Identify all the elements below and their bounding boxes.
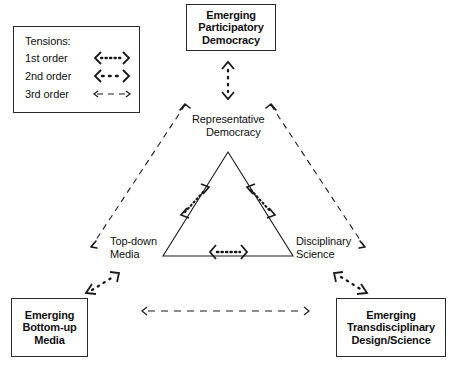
- legend-row-1st-order: 1st order: [25, 49, 139, 67]
- tensions-legend: Tensions: 1st order 2nd order 3rd order: [13, 26, 140, 113]
- node-label-line: Democracy: [202, 126, 265, 139]
- box-line: Design/Science: [351, 334, 430, 347]
- legend-row-2nd-order: 2nd order: [25, 67, 139, 85]
- node-label-line: Disciplinary: [296, 235, 351, 248]
- top-down-media-label: Top-down Media: [110, 235, 157, 261]
- inner-triangle: [163, 152, 293, 256]
- emerging-participatory-democracy-box: Emerging Participatory Democracy: [186, 4, 276, 51]
- node-label-line: Top-down: [110, 235, 157, 248]
- dotted-double-arrow-dense-icon: [88, 51, 136, 65]
- outer-triangle-right-apex-arrowhead: [266, 104, 276, 110]
- diagram-canvas: Tensions: 1st order 2nd order 3rd order: [0, 0, 453, 368]
- box-line: Media: [34, 334, 64, 347]
- legend-title: Tensions:: [25, 34, 139, 49]
- node-label-line: Media: [110, 248, 157, 261]
- box-line: Transdisciplinary: [347, 321, 435, 334]
- node-label-line: Science: [296, 248, 351, 261]
- box-line: Democracy: [202, 34, 260, 47]
- emerging-transdisciplinary-design-science-box: Emerging Transdisciplinary Design/Scienc…: [336, 298, 446, 357]
- legend-label-2nd-order: 2nd order: [25, 70, 88, 82]
- emerging-bottom-up-media-box: Emerging Bottom-up Media: [11, 298, 88, 357]
- outer-triangle-left-apex-arrowhead: [180, 104, 190, 110]
- box-line: Emerging: [25, 309, 75, 322]
- tension-disciplinary-transdisciplinary: [334, 272, 367, 294]
- outer-triangle-bottom-right-arrowhead: [359, 241, 365, 248]
- node-label-line: Representative: [192, 113, 265, 126]
- tension-topdown-bottomup: [86, 272, 119, 294]
- tension-representative-disciplinary: [247, 184, 275, 218]
- legend-label-3rd-order: 3rd order: [25, 88, 88, 100]
- disciplinary-science-label: Disciplinary Science: [296, 235, 351, 261]
- legend-row-3rd-order: 3rd order: [25, 85, 139, 103]
- representative-democracy-label: Representative Democracy: [192, 113, 265, 139]
- tension-topdown-disciplinary: [210, 245, 247, 259]
- tension-representative-participatory: [222, 62, 234, 99]
- dotted-double-arrow-sparse-icon: [88, 69, 136, 83]
- box-line: Emerging: [206, 9, 256, 22]
- box-line: Bottom-up: [22, 321, 76, 334]
- legend-label-1st-order: 1st order: [25, 52, 88, 64]
- box-line: Emerging: [366, 309, 416, 322]
- dashed-double-arrow-icon: [88, 87, 136, 101]
- tension-bottomup-transdisciplinary: [142, 307, 309, 315]
- box-line: Participatory: [198, 21, 263, 34]
- outer-triangle-bottom-left-arrowhead: [91, 241, 97, 248]
